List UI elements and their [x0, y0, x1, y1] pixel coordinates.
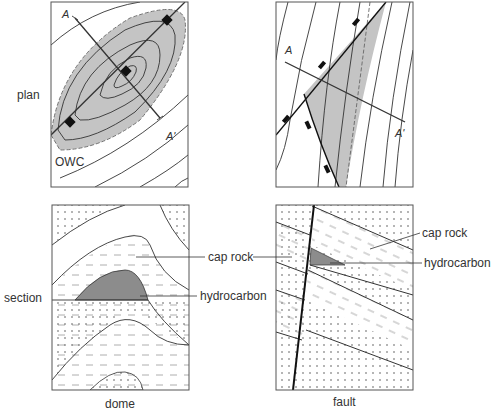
- plan-dome-a-label: A: [62, 9, 69, 20]
- plan-dome-a-prime-label: A': [166, 131, 175, 142]
- plan-fault-a-prime-label: A': [395, 128, 404, 139]
- plan-fault-map: [276, 2, 413, 187]
- section-fault: [276, 205, 413, 390]
- row-label-plan: plan: [17, 89, 40, 101]
- plan-fault-a-label: A: [285, 45, 292, 56]
- hydrocarbon-label-fault: hydrocarbon: [424, 257, 491, 269]
- cap-rock-label-fault: cap rock: [422, 227, 467, 239]
- row-label-section: section: [4, 292, 42, 304]
- section-dome: [52, 205, 189, 390]
- cap-rock-label-dome: cap rock: [208, 251, 253, 263]
- column-label-fault: fault: [333, 396, 356, 408]
- owc-label: OWC: [55, 156, 84, 168]
- hydrocarbon-label-dome: hydrocarbon: [200, 290, 267, 302]
- column-label-dome: dome: [105, 398, 135, 410]
